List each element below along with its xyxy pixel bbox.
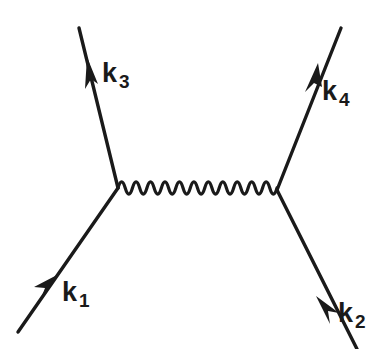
momentum-label-k3: k3 [102, 60, 128, 87]
momentum-label-k4: k4 [322, 78, 348, 105]
photon-propagator-wave [118, 182, 277, 194]
fermion-line-k3 [79, 28, 118, 188]
momentum-subscript-k2: 2 [355, 311, 366, 332]
arrowhead-k4 [305, 63, 322, 92]
feynman-diagram-canvas: k3 k4 k1 k2 [0, 0, 389, 349]
momentum-label-k1: k1 [62, 279, 88, 306]
fermion-line-k4 [277, 28, 341, 190]
feynman-diagram-svg [0, 0, 389, 349]
momentum-subscript-k4: 4 [339, 89, 350, 110]
fermion-line-k1 [18, 188, 118, 332]
momentum-label-k2: k2 [338, 300, 364, 327]
momentum-subscript-k1: 1 [79, 290, 90, 311]
momentum-symbol-k3: k [102, 58, 117, 88]
momentum-symbol-k4: k [322, 76, 337, 106]
momentum-symbol-k2: k [338, 298, 353, 328]
momentum-symbol-k1: k [62, 277, 77, 307]
arrowhead-k1 [34, 275, 57, 301]
momentum-subscript-k3: 3 [119, 71, 130, 92]
